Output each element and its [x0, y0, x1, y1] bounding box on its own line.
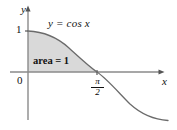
y-axis-label: y	[21, 4, 26, 15]
pi-over-two-denominator: 2	[91, 88, 104, 97]
y-axis-arrowhead	[25, 6, 30, 12]
y-tick-label-one: 1	[16, 24, 22, 35]
x-axis-label: x	[162, 76, 167, 87]
x-axis-arrowhead	[159, 69, 165, 74]
x-tick-label-pi-over-two: π 2	[91, 77, 104, 98]
cosine-area-figure: y 1 y = cos x area = 1 0 π 2 x	[0, 0, 177, 130]
pi-over-two-numerator: π	[91, 77, 104, 86]
area-annotation-label: area = 1	[33, 56, 69, 67]
curve-equation-label: y = cos x	[48, 18, 90, 29]
origin-label: 0	[17, 75, 23, 86]
